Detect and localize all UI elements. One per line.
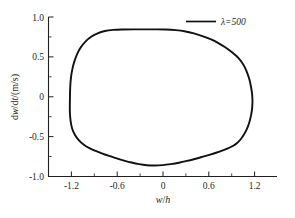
y-tick-label: -1.0: [29, 172, 44, 182]
figure-container: 1.0 0.5 0 -0.5 -1.0 -1.2 -0.6 0 0.6 1.2 …: [0, 0, 295, 218]
x-tick-label: -0.6: [110, 181, 125, 191]
x-tick-label: -1.2: [64, 181, 79, 191]
x-tick-label: 1.2: [249, 181, 261, 191]
y-axis-title-slash1: /d: [9, 101, 20, 109]
phase-portrait-chart: 1.0 0.5 0 -0.5 -1.0 -1.2 -0.6 0 0.6 1.2 …: [0, 0, 295, 218]
y-tick-label: 0: [39, 92, 44, 102]
x-axis-title-var2: h: [165, 194, 170, 205]
y-tick-label: 0.5: [32, 52, 44, 62]
y-tick-label: 1.0: [32, 13, 44, 23]
y-axis-title-tail: /(m/s): [9, 74, 21, 98]
x-tick-label: 0: [161, 181, 166, 191]
y-tick-label: -0.5: [29, 132, 44, 142]
y-axis-title: dw/dt/(m/s): [9, 74, 21, 120]
legend-label: λ=500: [220, 17, 246, 27]
x-tick-label: 0.6: [203, 181, 215, 191]
x-axis-title: w/h: [156, 194, 170, 205]
